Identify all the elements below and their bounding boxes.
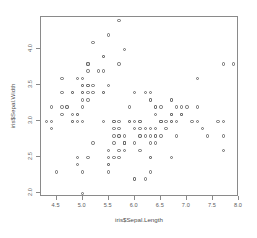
data-point: [71, 113, 74, 116]
data-point: [102, 120, 105, 123]
x-tick-label: 4.5: [52, 202, 60, 208]
data-point: [138, 149, 141, 152]
data-point: [154, 113, 157, 116]
y-tick-label: 3.5: [27, 78, 33, 90]
data-point: [76, 77, 79, 80]
data-point: [81, 105, 84, 108]
data-point: [81, 98, 84, 101]
y-tick-label: 3.0: [27, 114, 33, 126]
x-tick-label: 7.5: [208, 202, 216, 208]
y-tick-label: 4.0: [27, 42, 33, 54]
x-axis-title: iris$Sepal.Length: [115, 216, 163, 223]
x-tick-mark: [82, 196, 83, 200]
data-point: [222, 134, 225, 137]
y-tick-mark: [36, 84, 40, 85]
data-point: [81, 77, 84, 80]
data-point: [50, 105, 53, 108]
data-point: [86, 62, 89, 65]
data-point: [201, 127, 204, 130]
y-tick-mark: [36, 120, 40, 121]
data-point: [144, 127, 147, 130]
x-tick-label: 7.0: [182, 202, 190, 208]
x-tick-mark: [186, 196, 187, 200]
data-point: [91, 41, 94, 44]
x-tick-mark: [56, 196, 57, 200]
data-point: [222, 62, 225, 65]
data-point: [107, 170, 110, 173]
data-point: [76, 156, 79, 159]
data-point: [206, 134, 209, 137]
data-point: [180, 113, 183, 116]
data-point: [107, 84, 110, 87]
data-point: [117, 156, 120, 159]
data-point: [138, 120, 141, 123]
x-tick-mark: [160, 196, 161, 200]
x-tick-mark: [212, 196, 213, 200]
data-point: [91, 91, 94, 94]
x-tick-mark: [238, 196, 239, 200]
x-tick-mark: [108, 196, 109, 200]
data-point: [149, 156, 152, 159]
data-point: [149, 91, 152, 94]
data-point: [149, 127, 152, 130]
data-point: [117, 149, 120, 152]
data-point: [154, 127, 157, 130]
data-point: [170, 120, 173, 123]
data-point: [65, 105, 68, 108]
data-point: [112, 156, 115, 159]
data-point: [175, 120, 178, 123]
data-point: [149, 134, 152, 137]
data-point: [196, 77, 199, 80]
data-point: [55, 170, 58, 173]
y-tick-label: 2.5: [27, 150, 33, 162]
data-point: [170, 156, 173, 159]
plot-frame: [40, 16, 238, 196]
data-point: [117, 127, 120, 130]
data-point: [154, 105, 157, 108]
data-point: [170, 98, 173, 101]
data-point: [76, 163, 79, 166]
data-point: [60, 77, 63, 80]
data-point: [222, 120, 225, 123]
y-axis-title: iris$Sepal.Width: [9, 84, 16, 129]
data-point: [222, 149, 225, 152]
data-point: [107, 149, 110, 152]
data-point: [154, 134, 157, 137]
data-point: [133, 177, 136, 180]
data-point: [180, 105, 183, 108]
data-point: [170, 113, 173, 116]
data-point: [112, 141, 115, 144]
data-point: [91, 84, 94, 87]
data-point: [123, 48, 126, 51]
data-point: [232, 62, 235, 65]
data-point: [196, 120, 199, 123]
data-point: [117, 62, 120, 65]
data-point: [107, 156, 110, 159]
data-point: [102, 69, 105, 72]
x-tick-label: 5.0: [78, 202, 86, 208]
x-tick-label: 6.5: [156, 202, 164, 208]
data-point: [144, 177, 147, 180]
data-point: [81, 120, 84, 123]
data-point: [117, 134, 120, 137]
data-point: [144, 91, 147, 94]
data-point: [71, 120, 74, 123]
data-point: [50, 120, 53, 123]
data-point: [185, 105, 188, 108]
data-point: [154, 141, 157, 144]
data-point: [164, 127, 167, 130]
data-point: [138, 127, 141, 130]
data-point: [81, 84, 84, 87]
data-point: [159, 105, 162, 108]
data-point: [159, 134, 162, 137]
data-point: [86, 91, 89, 94]
data-point: [112, 127, 115, 130]
data-point: [123, 134, 126, 137]
data-point: [133, 120, 136, 123]
data-point: [117, 120, 120, 123]
data-point: [86, 84, 89, 87]
data-point: [216, 120, 219, 123]
data-point: [97, 69, 100, 72]
x-tick-label: 6.0: [130, 202, 138, 208]
data-point: [107, 33, 110, 36]
